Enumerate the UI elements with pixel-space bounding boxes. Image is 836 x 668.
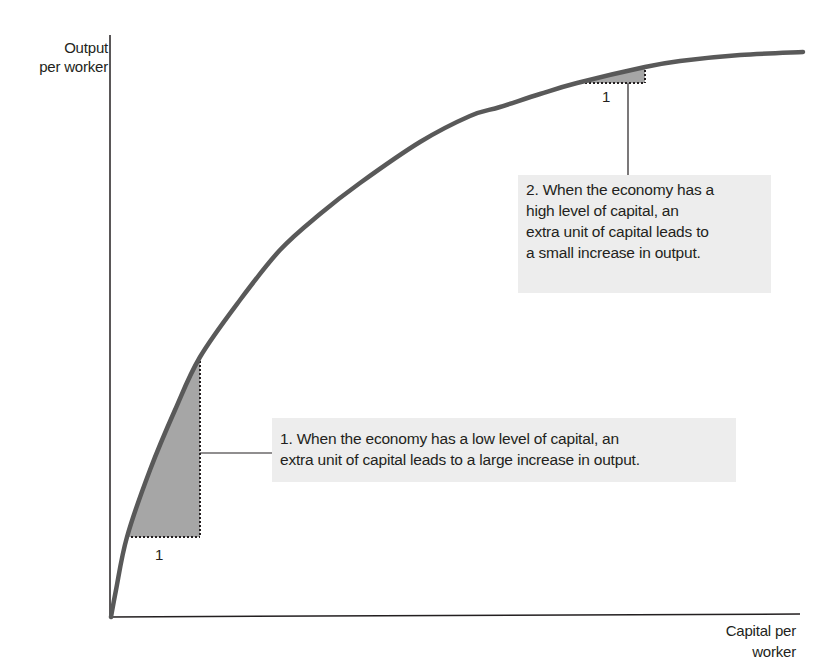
shaded-increase-low-capital: [127, 357, 200, 537]
y-axis-label: Output per worker: [0, 38, 108, 76]
annotation-box-high-capital: 2. When the economy has a high level of …: [518, 175, 771, 293]
x-axis: [110, 614, 800, 617]
chart-canvas: [0, 0, 836, 668]
production-function-curve: [111, 52, 803, 617]
annotation-line: 2. When the economy has a: [526, 179, 763, 200]
annotation-line: a small increase in output.: [526, 242, 763, 263]
annotation-line: high level of capital, an: [526, 200, 763, 221]
annotation-line: extra unit of capital leads to: [526, 221, 763, 242]
annotation-box-low-capital: 1. When the economy has a low level of c…: [272, 418, 736, 482]
x-axis-label: Capital per worker: [676, 620, 796, 662]
x-axis-label-line-2: worker: [676, 641, 796, 662]
annotation-line: 1. When the economy has a low level of c…: [280, 428, 728, 449]
y-axis-label-line-1: Output: [0, 38, 108, 57]
x-axis-label-line-1: Capital per: [676, 620, 796, 641]
annotation-line: extra unit of capital leads to a large i…: [280, 449, 728, 470]
unit-label-high-capital: 1: [602, 88, 610, 105]
unit-label-low-capital: 1: [155, 546, 163, 563]
y-axis-label-line-2: per worker: [0, 57, 108, 76]
